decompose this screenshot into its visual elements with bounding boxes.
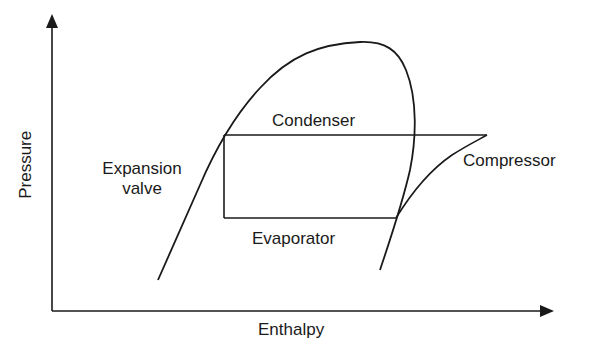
x-axis-label: Enthalpy [258,320,324,340]
expansion-label-line1: Expansion [90,159,194,179]
x-axis-arrow-icon [540,305,554,317]
compressor-label: Compressor [463,151,556,171]
expansion-valve-label: Expansion valve [90,159,194,198]
compressor-curve [396,135,487,218]
condenser-label: Condenser [272,111,355,131]
ph-diagram: Condenser Compressor Evaporator Expansio… [0,0,589,355]
evaporator-label: Evaporator [252,229,335,249]
y-axis-arrow-icon [46,14,58,28]
diagram-canvas [0,0,589,355]
y-axis-label: Pressure [16,131,36,199]
expansion-label-line2: valve [90,179,194,199]
